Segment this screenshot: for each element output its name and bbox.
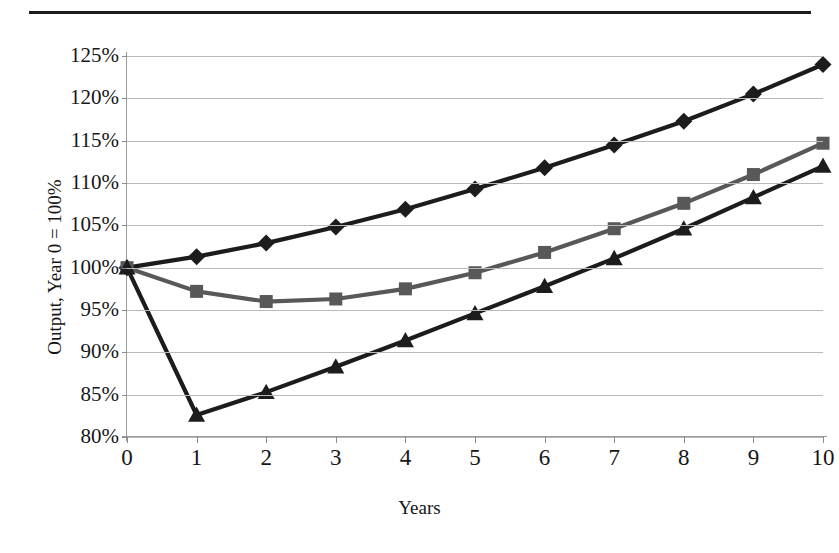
x-axis-tick-label: 10 bbox=[793, 446, 839, 469]
y-axis-tick bbox=[122, 310, 127, 311]
gridline bbox=[127, 352, 823, 353]
y-axis-tick bbox=[122, 141, 127, 142]
diamond-marker bbox=[258, 235, 275, 252]
plot-area bbox=[127, 56, 823, 437]
diamond-marker bbox=[675, 113, 692, 130]
diamond-marker bbox=[536, 159, 553, 176]
gridline bbox=[127, 56, 823, 57]
y-axis-tick bbox=[122, 395, 127, 396]
chart-figure: 80%85%90%95%100%105%110%115%120%125% Out… bbox=[0, 0, 839, 553]
diamond-marker bbox=[327, 219, 344, 236]
square-marker bbox=[399, 282, 412, 295]
x-axis-tick-label: 3 bbox=[306, 446, 366, 469]
x-axis-tick bbox=[336, 437, 337, 443]
y-axis-tick bbox=[122, 268, 127, 269]
diamond-marker bbox=[606, 136, 623, 153]
square-marker bbox=[329, 292, 342, 305]
x-axis-tick bbox=[545, 437, 546, 443]
x-axis-tick-label: 5 bbox=[445, 446, 505, 469]
x-axis-title: Years bbox=[0, 497, 839, 519]
x-axis-tick-label: 4 bbox=[375, 446, 435, 469]
y-axis-title-wrap: Output, Year 0 = 100% bbox=[16, 56, 44, 437]
x-axis-tick bbox=[405, 437, 406, 443]
y-axis-tick bbox=[122, 225, 127, 226]
square-marker bbox=[608, 222, 621, 235]
series-triangle-line bbox=[127, 166, 823, 415]
gridline bbox=[127, 141, 823, 142]
gridline bbox=[127, 183, 823, 184]
x-axis-tick-label: 2 bbox=[236, 446, 296, 469]
triangle-marker bbox=[815, 158, 832, 173]
x-axis-tick-label: 8 bbox=[654, 446, 714, 469]
x-axis-tick bbox=[753, 437, 754, 443]
square-marker bbox=[677, 197, 690, 210]
x-axis-tick bbox=[823, 437, 824, 443]
x-axis-tick bbox=[475, 437, 476, 443]
x-axis-tick bbox=[614, 437, 615, 443]
diamond-marker bbox=[188, 248, 205, 265]
square-marker bbox=[260, 295, 273, 308]
x-axis-tick-label: 0 bbox=[97, 446, 157, 469]
diamond-marker bbox=[397, 201, 414, 218]
diamond-marker bbox=[745, 86, 762, 103]
y-axis-tick bbox=[122, 352, 127, 353]
x-axis-tick-label: 1 bbox=[167, 446, 227, 469]
diamond-marker bbox=[815, 56, 832, 73]
series-square bbox=[121, 137, 830, 308]
x-axis-tick bbox=[266, 437, 267, 443]
gridline bbox=[127, 395, 823, 396]
gridline bbox=[127, 310, 823, 311]
x-axis-tick-label: 6 bbox=[515, 446, 575, 469]
y-axis-tick bbox=[122, 56, 127, 57]
y-axis-tick-label: 125% bbox=[49, 45, 119, 66]
gridline bbox=[127, 98, 823, 99]
y-axis-tick bbox=[122, 98, 127, 99]
x-axis-tick bbox=[684, 437, 685, 443]
chart-title-cropped bbox=[0, 0, 839, 9]
square-marker bbox=[538, 246, 551, 259]
square-marker bbox=[747, 168, 760, 181]
square-marker bbox=[817, 137, 830, 150]
series-diamond bbox=[119, 56, 832, 276]
series-layer bbox=[127, 56, 823, 437]
y-axis-title: Output, Year 0 = 100% bbox=[44, 102, 66, 432]
x-axis-tick bbox=[127, 437, 128, 443]
y-axis-tick bbox=[122, 183, 127, 184]
gridline bbox=[127, 268, 823, 269]
header-rule bbox=[29, 11, 811, 14]
x-axis-tick-label: 9 bbox=[723, 446, 783, 469]
x-axis-tick-label: 7 bbox=[584, 446, 644, 469]
x-axis-tick bbox=[197, 437, 198, 443]
square-marker bbox=[190, 285, 203, 298]
gridline bbox=[127, 225, 823, 226]
series-diamond-line bbox=[127, 64, 823, 267]
